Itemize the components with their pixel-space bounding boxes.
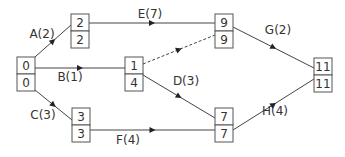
activity-label: B(1) — [57, 70, 82, 84]
activity-label: F(4) — [116, 133, 140, 147]
event-node: 77 — [215, 108, 233, 142]
latest-time: 11 — [315, 77, 330, 91]
edge-e: E(7) — [89, 7, 215, 26]
edge-a: A(2) — [29, 25, 71, 57]
earliest-time: 11 — [315, 60, 330, 74]
earliest-time: 0 — [22, 59, 30, 73]
earliest-time: 3 — [77, 110, 85, 124]
event-node: 14 — [125, 57, 143, 91]
arrowhead-icon — [49, 101, 56, 107]
latest-time: 3 — [77, 127, 85, 141]
edge-c: C(3) — [30, 90, 72, 122]
network-diagram: A(2)B(1)C(3)E(7)D(3)F(4)G(2)H(4) 0022143… — [0, 0, 345, 157]
arrowhead-icon — [150, 127, 156, 133]
latest-time: 9 — [220, 33, 228, 47]
earliest-time: 9 — [220, 16, 228, 30]
edge-h: H(4) — [233, 79, 314, 130]
edge-dummy — [143, 35, 215, 64]
edge-f: F(4) — [90, 127, 215, 147]
earliest-time: 7 — [220, 110, 228, 124]
edge-d: D(3) — [143, 74, 215, 118]
latest-time: 7 — [220, 127, 228, 141]
earliest-time: 1 — [130, 59, 138, 73]
latest-time: 4 — [130, 76, 138, 90]
event-node: 22 — [71, 14, 89, 48]
earliest-time: 2 — [76, 16, 84, 30]
activity-label: H(4) — [262, 104, 288, 118]
activity-label: G(2) — [265, 23, 291, 37]
edge-b: B(1) — [35, 65, 125, 84]
activity-label: C(3) — [30, 108, 55, 122]
edge-g: G(2) — [233, 23, 314, 68]
event-node: 00 — [17, 57, 35, 91]
activity-label: A(2) — [29, 27, 54, 41]
event-node: 1111 — [314, 58, 332, 92]
latest-time: 0 — [22, 76, 30, 90]
activity-label: E(7) — [138, 7, 163, 21]
latest-time: 2 — [76, 33, 84, 47]
event-node: 99 — [215, 14, 233, 48]
event-node: 33 — [72, 108, 90, 142]
activity-label: D(3) — [173, 74, 199, 88]
